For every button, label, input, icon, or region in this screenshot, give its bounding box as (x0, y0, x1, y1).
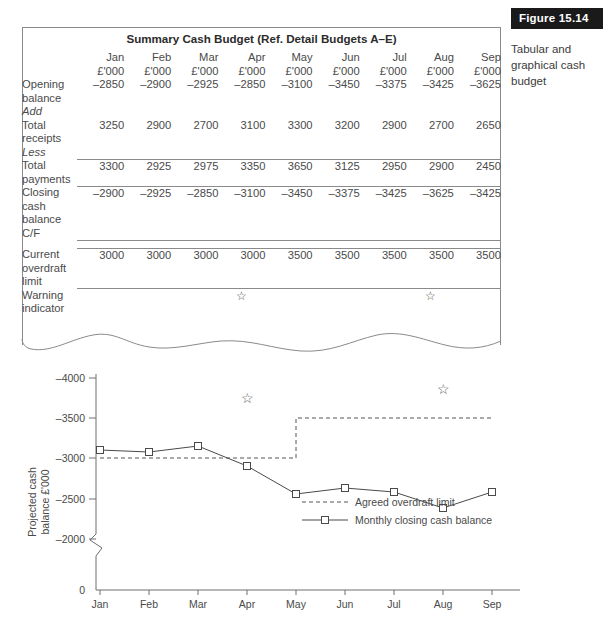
cell-less-jun (313, 146, 360, 160)
cell-less-feb (124, 146, 171, 160)
row-label-line: Total (22, 159, 77, 173)
cell-overdraft-may: 3500 (265, 248, 312, 289)
cell-overdraft-sep: 3500 (454, 248, 501, 289)
month-header-feb: Feb (124, 51, 171, 65)
cell-closing-jun: –3375 (313, 186, 360, 240)
month-header-may: May (265, 51, 312, 65)
row-label-opening-balance: Opening balance (22, 78, 77, 105)
cell-overdraft-apr: 3000 (218, 248, 265, 289)
cell-less-mar (171, 146, 218, 160)
cell-opening-feb: –2900 (124, 78, 171, 105)
cell-receipts-jan: 3250 (77, 119, 124, 146)
cell-add-feb (124, 105, 171, 119)
cell-opening-jul: –3375 (360, 78, 407, 105)
cell-add-apr (218, 105, 265, 119)
cell-opening-may: –3100 (265, 78, 312, 105)
cell-receipts-jul: 2900 (360, 119, 407, 146)
cell-opening-aug: –3425 (407, 78, 454, 105)
row-label-total-payments: Total payments (22, 159, 77, 186)
month-header-apr: Apr (218, 51, 265, 65)
row-label-line: Opening (22, 78, 77, 92)
cell-payments-sep: 2450 (454, 159, 501, 186)
cell-add-jul (360, 105, 407, 119)
legend-marker-closing (322, 517, 329, 524)
warning-cell-sep (454, 289, 501, 316)
marker-jul (391, 489, 398, 496)
cell-closing-feb: –2925 (124, 186, 171, 240)
cell-less-aug (407, 146, 454, 160)
cell-payments-feb: 2925 (124, 159, 171, 186)
cell-receipts-jun: 3200 (313, 119, 360, 146)
x-tick-label-may: May (286, 598, 307, 610)
cell-overdraft-jun: 3500 (313, 248, 360, 289)
unit-may: £'000 (265, 65, 312, 79)
y-tick-label-4: –2000 (56, 533, 85, 545)
projected-cash-balance-chart: Projected cash balance £'000 –4000 –3500… (0, 352, 607, 633)
row-label-line: balance (22, 213, 77, 227)
unit-mar: £'000 (171, 65, 218, 79)
unit-jul: £'000 (360, 65, 407, 79)
spacer-cell (22, 240, 77, 248)
warning-cell-jul (360, 289, 407, 316)
row-label-add: Add (22, 105, 77, 119)
cell-less-sep (454, 146, 501, 160)
row-label-line: indicator (22, 302, 77, 316)
table-title: Summary Cash Budget (Ref. Detail Budgets… (22, 32, 501, 45)
row-label-closing-balance: Closing cash balance C/F (22, 186, 77, 240)
cell-closing-jul: –3425 (360, 186, 407, 240)
cell-closing-aug: –3625 (407, 186, 454, 240)
x-tick-label-jun: Jun (337, 598, 354, 610)
cell-payments-aug: 2900 (407, 159, 454, 186)
x-tick-label-jan: Jan (92, 598, 109, 610)
row-label-line: cash (22, 200, 77, 214)
warning-cell-mar (171, 289, 218, 316)
table-row-total-receipts: Total receipts 3250 2900 2700 3100 3300 … (22, 119, 501, 146)
marker-jun (342, 485, 349, 492)
cell-less-may (265, 146, 312, 160)
marker-mar (195, 443, 202, 450)
cell-payments-jun: 3125 (313, 159, 360, 186)
row-label-line: limit (22, 275, 77, 289)
month-header-aug: Aug (407, 51, 454, 65)
table-row-opening-balance: Opening balance –2850 –2900 –2925 –2850 … (22, 78, 501, 105)
row-label-overdraft-limit: Current overdraft limit (22, 248, 77, 289)
header-corner (22, 51, 77, 65)
row-label-line: Total (22, 119, 77, 133)
cell-add-jun (313, 105, 360, 119)
row-label-less: Less (22, 146, 77, 160)
row-label-warning-indicator: Warning indicator (22, 289, 77, 316)
cell-less-jul (360, 146, 407, 160)
y-tick-label-3: –2500 (56, 493, 85, 505)
cell-payments-apr: 3350 (218, 159, 265, 186)
row-label-line: Current (22, 248, 77, 262)
row-label-line: Warning (22, 289, 77, 303)
cell-add-mar (171, 105, 218, 119)
warning-cell-jan (77, 289, 124, 316)
month-header-jun: Jun (313, 51, 360, 65)
cell-opening-apr: –2850 (218, 78, 265, 105)
cell-overdraft-jan: 3000 (77, 248, 124, 289)
cell-receipts-mar: 2700 (171, 119, 218, 146)
chart-warning-star-icon-aug: ☆ (437, 381, 450, 397)
cell-overdraft-aug: 3500 (407, 248, 454, 289)
x-tick-label-feb: Feb (140, 598, 158, 610)
legend-label-overdraft: Agreed overdraft limit (355, 496, 455, 508)
unit-aug: £'000 (407, 65, 454, 79)
x-axis-ticks (100, 590, 492, 595)
x-tick-label-jul: Jul (387, 598, 400, 610)
warning-cell-jun (313, 289, 360, 316)
units-corner (22, 65, 77, 79)
table-row-closing-balance: Closing cash balance C/F –2900 –2925 –28… (22, 186, 501, 240)
marker-may (293, 491, 300, 498)
cell-opening-jun: –3450 (313, 78, 360, 105)
unit-jun: £'000 (313, 65, 360, 79)
x-tick-label-sep: Sep (483, 598, 502, 610)
cell-payments-jan: 3300 (77, 159, 124, 186)
cell-closing-sep: –3425 (454, 186, 501, 240)
cash-budget-table: Jan Feb Mar Apr May Jun Jul Aug Sep £'00… (22, 51, 501, 316)
row-label-line: payments (22, 173, 77, 187)
table-row-warning-indicator: Warning indicator ☆ ☆ (22, 289, 501, 316)
unit-apr: £'000 (218, 65, 265, 79)
row-label-line: Closing (22, 186, 77, 200)
cell-opening-mar: –2925 (171, 78, 218, 105)
